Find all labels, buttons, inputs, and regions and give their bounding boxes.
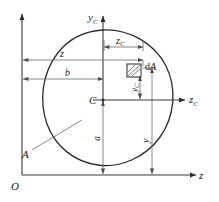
element-label-a: A bbox=[149, 61, 157, 72]
area-label-leader-group bbox=[32, 120, 82, 150]
dimension-label-zc: zC bbox=[115, 35, 125, 48]
element-hatch-2 bbox=[132, 69, 140, 76]
diagram-canvas: yC zC O z C A z b zC dA yC a bbox=[0, 0, 219, 202]
dimension-z-group bbox=[23, 60, 143, 66]
dimension-label-a: a bbox=[91, 136, 102, 141]
centroid-dot bbox=[102, 99, 105, 102]
element-label-da: dA bbox=[145, 61, 157, 72]
dimension-label-zc-sub: C bbox=[120, 40, 125, 48]
global-axes-group bbox=[22, 14, 196, 175]
dimension-label-z: z bbox=[59, 48, 64, 59]
figure-container: yC zC O z C A z b zC dA yC a bbox=[0, 0, 219, 202]
dimension-label-yc-sub: C bbox=[133, 83, 141, 88]
dimension-label-b: b bbox=[65, 67, 70, 78]
centroid-label-c: C bbox=[89, 94, 97, 106]
axis-label-yc: yC bbox=[87, 11, 98, 26]
dimension-y-group bbox=[143, 68, 156, 174]
dimension-label-yc: yC bbox=[129, 83, 141, 93]
axis-label-zc-sub: C bbox=[193, 100, 198, 108]
axis-label-zc: zC bbox=[188, 93, 198, 108]
origin-label-o: O bbox=[11, 180, 19, 192]
area-label-leader bbox=[32, 120, 82, 150]
differential-element-group bbox=[127, 64, 141, 77]
axis-label-z: z bbox=[198, 169, 204, 181]
dimension-label-y: y bbox=[140, 138, 151, 144]
axis-label-yc-sub: C bbox=[93, 18, 98, 26]
junction-dots-group bbox=[102, 99, 105, 102]
area-label-a: A bbox=[21, 148, 29, 160]
